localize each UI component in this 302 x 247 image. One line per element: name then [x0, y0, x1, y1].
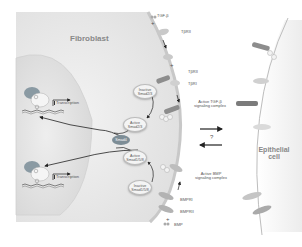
tgf-beta-label: TGF-β — [157, 14, 169, 18]
smad4: Smad4 — [112, 135, 130, 145]
bmprii-label: BMPRII — [180, 210, 194, 214]
active-smad158: Active Smad1/5/8 — [123, 150, 147, 165]
bmpri-label: BMPRI — [180, 198, 193, 202]
fibroblast-label: Fibroblast — [70, 34, 109, 43]
active-smad23: Active Smad2/3 — [123, 117, 147, 132]
plus-sign-1: + — [151, 20, 155, 27]
bmp-active-complex-label: Active BMP signaling complex — [194, 172, 228, 181]
bmp-label: BMP — [174, 223, 183, 227]
tbrii-label: TβRII — [188, 70, 198, 74]
transcription-top-label: Transcription — [54, 101, 79, 105]
inactive-smad158: Inactive Smad1/5/8 — [128, 180, 152, 195]
plus-sign-2: + — [170, 62, 174, 69]
tbri-label: TβRI — [188, 82, 197, 86]
diagram-canvas — [0, 0, 302, 247]
plus-sign-3: + — [166, 216, 170, 223]
transcription-bottom-label: Transcription — [54, 175, 79, 179]
tgf-active-complex-label: Active TGF-β signaling complex — [193, 100, 227, 109]
inactive-smad23: Inactive Smad2/3 — [133, 84, 157, 99]
question-mark: ? — [210, 134, 213, 141]
tbrii-top-label: TβRII — [181, 30, 191, 34]
epithelial-cell-label: Epithelial cell — [254, 146, 294, 160]
